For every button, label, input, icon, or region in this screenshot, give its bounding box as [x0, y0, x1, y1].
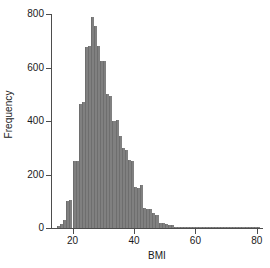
x-axis-tick [257, 229, 258, 234]
plot-area [51, 14, 263, 228]
y-axis-tick-label: 600 [0, 63, 44, 73]
y-axis-title-text: Frequency [3, 90, 14, 138]
histogram-bar [257, 227, 260, 228]
x-axis-tick-label: 40 [119, 236, 149, 246]
y-axis-tick [46, 121, 51, 122]
x-axis-tick-label: 20 [58, 236, 88, 246]
x-axis-line [51, 228, 263, 229]
x-axis-tick [134, 229, 135, 234]
x-axis-tick [73, 229, 74, 234]
y-axis-tick [46, 228, 51, 229]
x-axis-tick [195, 229, 196, 234]
y-axis-tick [46, 14, 51, 15]
y-axis-tick-label: 400 [0, 116, 44, 126]
y-axis-tick-label: 800 [0, 9, 44, 19]
y-axis-title: Frequency [0, 0, 16, 228]
bmi-frequency-histogram: Frequency 020040060080020406080 BMI [0, 0, 270, 268]
y-axis-tick [46, 68, 51, 69]
y-axis-tick [46, 175, 51, 176]
y-axis-tick-label: 0 [0, 223, 44, 233]
y-axis-tick-label: 200 [0, 170, 44, 180]
x-axis-tick-label: 60 [180, 236, 210, 246]
x-axis-tick-label: 80 [242, 236, 270, 246]
x-axis-title: BMI [51, 250, 263, 261]
